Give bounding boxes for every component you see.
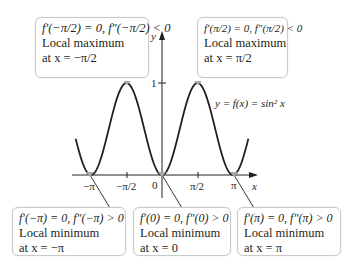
callout-location: at x = π [244,241,334,256]
callout-type: Local minimum [244,226,334,241]
callout-location: at x = −π [19,241,119,256]
callout-type: Local minimum [140,226,224,241]
callout-local-min-neg-pi: f′(−π) = 0, f″(−π) > 0 Local minimum at … [12,207,126,256]
x-tick-label-neg-half-pi: −π/2 [116,180,136,192]
leader-line-min-zero [162,175,182,208]
callout-condition: f′(0) = 0, f″(0) > 0 [140,211,224,226]
callout-type: Local maximum [204,36,281,51]
leader-line-min-pi [234,175,254,208]
x-axis-arrow-icon [249,172,258,178]
x-axis-label: x [251,180,257,192]
callout-location: at x = 0 [140,241,224,256]
y-tick-label-one: 1 [151,77,157,89]
callout-condition: f′(−π) = 0, f″(−π) > 0 [19,211,119,226]
callout-location: at x = −π/2 [42,51,142,66]
callout-local-min-pi: f′(π) = 0, f″(π) > 0 Local minimum at x … [237,207,341,256]
callout-type: Local maximum [42,36,142,51]
callout-local-max-neg-half-pi: f′(−π/2) = 0, f″(−π/2) < 0 Local maximum… [35,17,149,78]
x-tick-label-neg-pi: −π [83,180,95,192]
callout-type: Local minimum [19,226,119,241]
callout-location: at x = π/2 [204,51,281,66]
callout-condition: f′(π/2) = 0, f″(π/2) < 0 [204,21,281,36]
callout-local-min-zero: f′(0) = 0, f″(0) > 0 Local minimum at x … [133,207,231,256]
x-tick-label-half-pi: π/2 [190,180,204,192]
callout-condition: f′(−π/2) = 0, f″(−π/2) < 0 [42,21,142,36]
x-tick-label-pi: π [231,179,237,191]
callout-local-max-half-pi: f′(π/2) = 0, f″(π/2) < 0 Local maximum a… [197,17,288,78]
callout-condition: f′(π) = 0, f″(π) > 0 [244,211,334,226]
curve-label: y = f(x) = sin² x [214,97,285,110]
x-tick-label-zero: 0 [152,179,158,191]
